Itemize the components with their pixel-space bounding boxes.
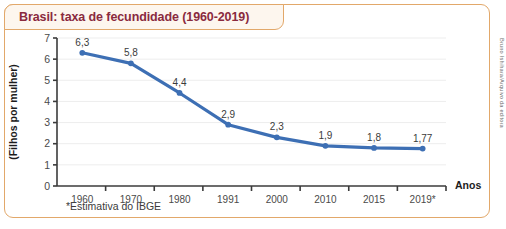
data-point bbox=[225, 122, 231, 128]
y-tick-label: 0 bbox=[44, 180, 50, 192]
y-tick-label: 5 bbox=[44, 74, 50, 86]
data-point-labels: 6,35,84,42,92,31,91,81,77 bbox=[75, 37, 432, 144]
line-chart: 01234567 1960197019801991200020102015201… bbox=[0, 0, 506, 229]
figure-container: 01234567 1960197019801991200020102015201… bbox=[0, 0, 506, 229]
x-tick-label: 2000 bbox=[266, 194, 289, 205]
data-point-label: 1,8 bbox=[367, 132, 381, 143]
x-tick-label: 2010 bbox=[314, 194, 337, 205]
x-tick-label: 1980 bbox=[168, 194, 191, 205]
data-point bbox=[177, 90, 183, 96]
y-tick-label: 6 bbox=[44, 53, 50, 65]
data-point-label: 1,9 bbox=[318, 130, 332, 141]
data-point-label: 4,4 bbox=[173, 77, 187, 88]
page-title: Brasil: taxa de fecundidade (1960-2019) bbox=[5, 10, 249, 24]
y-axis-label: (Filhos por mulher) bbox=[7, 64, 19, 160]
data-point bbox=[128, 60, 134, 66]
data-point bbox=[371, 145, 377, 151]
data-point bbox=[79, 50, 85, 56]
data-point-label: 2,9 bbox=[221, 109, 235, 120]
footnote: *Estimativa do IBGE bbox=[66, 200, 161, 212]
data-point bbox=[420, 146, 426, 152]
data-point-label: 6,3 bbox=[75, 37, 89, 48]
y-tick-label: 7 bbox=[44, 32, 50, 44]
data-point bbox=[323, 143, 329, 149]
x-axis-label: Anos bbox=[455, 179, 481, 191]
gridlines bbox=[57, 38, 446, 165]
x-tick-label: 2019* bbox=[410, 194, 436, 205]
plot-area: 01234567 1960197019801991200020102015201… bbox=[0, 0, 506, 229]
chart-title-bar: Brasil: taxa de fecundidade (1960-2019) bbox=[4, 4, 284, 30]
y-tick-label: 2 bbox=[44, 137, 50, 149]
y-tick-label: 4 bbox=[44, 95, 50, 107]
y-tick-label: 1 bbox=[44, 159, 50, 171]
y-tick-label: 3 bbox=[44, 116, 50, 128]
data-point-label: 1,77 bbox=[413, 133, 433, 144]
x-tick-label: 2015 bbox=[363, 194, 386, 205]
data-point-label: 5,8 bbox=[124, 47, 138, 58]
image-credit: Bruno Ishihara/Arquivo da editora bbox=[499, 38, 505, 128]
data-point bbox=[274, 134, 280, 140]
y-axis-ticks: 01234567 bbox=[44, 32, 57, 192]
data-point-label: 2,3 bbox=[270, 121, 284, 132]
x-tick-label: 1991 bbox=[217, 194, 240, 205]
